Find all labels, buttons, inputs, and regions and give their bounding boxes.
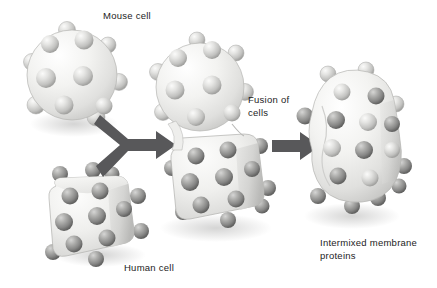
intermixed-cell-facet [380,100,401,184]
fused-cell [150,32,277,228]
intermixed-cell [297,62,413,214]
label-fusion-of-cells: Fusion of cells [248,94,289,119]
mouse-cell [24,22,128,127]
figure-canvas: Mouse cell Human cell Fusion of cells In… [0,0,437,288]
fusion-arrow [94,115,176,177]
label-mouse-cell: Mouse cell [103,10,151,23]
label-intermixed-membrane-proteins: Intermixed membrane proteins [320,237,417,262]
label-human-cell: Human cell [124,262,174,275]
